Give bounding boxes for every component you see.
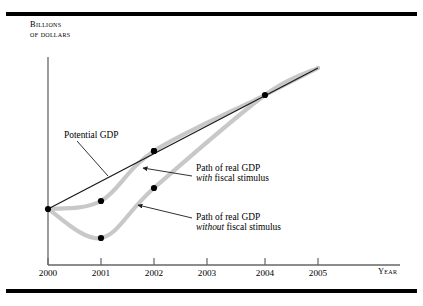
x-axis-title: Year	[378, 267, 397, 277]
data-point-marker	[45, 206, 51, 212]
x-axis-tick-label: 2004	[256, 268, 274, 278]
without-stimulus-leader	[138, 205, 192, 218]
axis-lines	[48, 57, 400, 265]
data-point-marker	[151, 185, 157, 191]
y-axis-title: Billions of dollars	[30, 20, 70, 40]
data-point-marker	[98, 198, 104, 204]
chart-plot-area	[0, 0, 423, 306]
annotation-with-fiscal-stimulus: Path of real GDP with fiscal stimulus	[196, 163, 269, 183]
y-axis-title-line2: of dollars	[30, 30, 70, 40]
annotation-potential-gdp: Potential GDP	[64, 130, 118, 140]
x-axis-tick-label: 2002	[145, 268, 163, 278]
annotation-potential-gdp-text: Potential GDP	[64, 130, 118, 140]
y-axis-title-line1: Billions	[30, 20, 61, 29]
annotation-with-line2: with fiscal stimulus	[196, 173, 269, 183]
data-point-marker	[151, 148, 157, 154]
annotation-with-rest: fiscal stimulus	[212, 173, 269, 183]
annotation-with-line1: Path of real GDP	[196, 163, 269, 173]
data-point-marker	[98, 235, 104, 241]
x-axis-tick-label: 2005	[309, 268, 327, 278]
potential-gdp-leader	[77, 141, 108, 176]
annotation-without-line1: Path of real GDP	[196, 212, 281, 222]
data-point-marker	[262, 92, 268, 98]
annotation-without-rest: fiscal stimulus	[224, 222, 281, 232]
annotation-without-fiscal-stimulus: Path of real GDP without fiscal stimulus	[196, 212, 281, 232]
x-axis-tick-label: 2000	[39, 268, 57, 278]
x-axis-tick-label: 2001	[92, 268, 110, 278]
annotation-without-line2: without fiscal stimulus	[196, 222, 281, 232]
annotation-with-emphasis: with	[196, 173, 212, 183]
x-axis-tick-label: 2003	[198, 268, 216, 278]
annotation-without-emphasis: without	[196, 222, 224, 232]
economics-figure: Billions of dollars Year 200020012002200…	[0, 0, 423, 306]
x-axis-ticks	[48, 258, 318, 265]
